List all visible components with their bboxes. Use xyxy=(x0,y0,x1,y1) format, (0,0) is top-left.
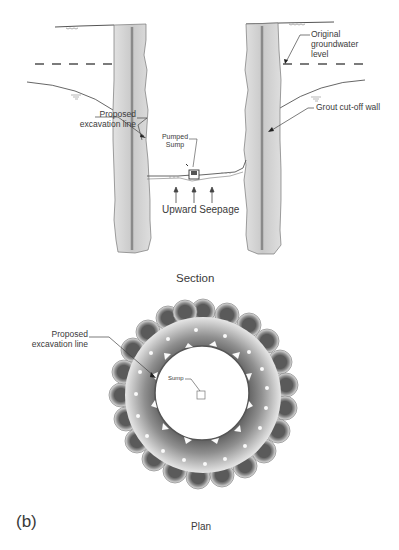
sump-box xyxy=(197,391,205,399)
label-line-2: excavation line xyxy=(12,340,88,350)
leader-groundwater-level xyxy=(286,35,310,62)
drawdown-curve-left xyxy=(27,82,113,110)
label-line-3: level xyxy=(311,50,358,60)
label-proposed-excavation-line-plan: Proposed excavation line xyxy=(12,330,88,350)
pumped-sump xyxy=(186,164,199,179)
figure-label: (b) xyxy=(16,512,37,532)
label-original-groundwater-level: Original groundwater level xyxy=(311,30,358,59)
label-upward-seepage: Upward Seepage xyxy=(162,204,239,216)
label-line-2: Sump xyxy=(158,141,192,149)
label-line-2: excavation line xyxy=(62,120,136,130)
label-sump: Sump xyxy=(168,375,184,382)
label-proposed-excavation-line-section: Proposed excavation line xyxy=(62,110,136,130)
water-table-symbol-right xyxy=(311,97,321,101)
label-grout-cutoff-wall: Grout cut-off wall xyxy=(316,103,380,113)
grout-wall-right xyxy=(244,23,281,254)
water-table-symbol-left xyxy=(71,95,81,99)
plan-drawing xyxy=(89,299,298,489)
upward-seepage-arrows xyxy=(174,187,214,203)
grout-wall-left xyxy=(113,24,151,253)
label-line-1: Pumped xyxy=(158,133,192,141)
plan-title: Plan xyxy=(191,521,211,533)
label-pumped-sump: Pumped Sump xyxy=(158,133,192,149)
section-title: Section xyxy=(176,272,214,285)
ground-surface-left xyxy=(55,25,114,29)
